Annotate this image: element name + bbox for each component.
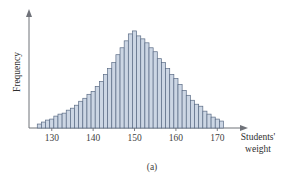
histogram-bar — [91, 91, 95, 128]
x-axis-ticks: 130140150160170 — [45, 128, 225, 143]
histogram-bar — [37, 124, 41, 128]
histogram-bar — [70, 108, 74, 128]
histogram-bar — [153, 52, 157, 128]
histogram-bar — [120, 48, 124, 128]
histogram-bar — [116, 55, 120, 128]
figure-caption: (a) — [147, 162, 158, 173]
histogram-bar — [190, 100, 194, 128]
histogram-bar — [211, 117, 215, 128]
histogram-bar — [219, 121, 223, 128]
histogram-bar — [195, 104, 199, 128]
histogram-bar — [186, 95, 190, 128]
histogram-bar — [132, 31, 136, 128]
histogram-bar — [87, 94, 91, 128]
x-axis-tick-label: 160 — [169, 133, 184, 143]
histogram-bar — [95, 86, 99, 128]
histogram-bar — [215, 119, 219, 128]
histogram-bar — [166, 69, 170, 128]
x-axis-label-line2: weight — [245, 144, 271, 154]
x-axis-tick-label: 150 — [127, 133, 142, 143]
histogram-bar — [141, 39, 145, 128]
histogram-bars — [37, 31, 223, 128]
histogram-bar — [199, 106, 203, 128]
histogram-bar — [203, 111, 207, 128]
histogram-bar — [178, 84, 182, 128]
histogram-bar — [41, 122, 45, 128]
histogram-bar — [79, 101, 83, 128]
y-axis-arrow — [26, 9, 32, 17]
histogram-bar — [207, 114, 211, 128]
x-axis-arrow — [240, 125, 248, 131]
histogram-bar — [50, 119, 54, 128]
histogram-bar — [112, 63, 116, 128]
figure-container: 130140150160170 Students' weight Frequen… — [0, 0, 308, 180]
histogram-bar — [46, 120, 50, 128]
histogram-bar — [62, 113, 66, 128]
x-axis-tick-label: 170 — [210, 133, 225, 143]
histogram-bar — [137, 36, 141, 128]
histogram-bar — [174, 78, 178, 128]
x-axis-label-line1: Students' — [241, 132, 276, 142]
histogram-bar — [128, 34, 132, 128]
histogram-chart: 130140150160170 Students' weight Frequen… — [0, 0, 308, 180]
histogram-bar — [145, 43, 149, 128]
histogram-bar — [104, 75, 108, 128]
histogram-bar — [108, 69, 112, 128]
histogram-bar — [124, 41, 128, 128]
histogram-bar — [83, 98, 87, 128]
histogram-bar — [75, 105, 79, 128]
histogram-bar — [170, 75, 174, 128]
histogram-bar — [99, 81, 103, 128]
y-axis-label: Frequency — [12, 52, 22, 92]
histogram-bar — [54, 116, 58, 128]
histogram-bar — [66, 110, 70, 128]
histogram-bar — [58, 114, 62, 128]
x-axis-tick-label: 130 — [45, 133, 60, 143]
histogram-bar — [157, 59, 161, 128]
histogram-bar — [149, 48, 153, 128]
histogram-bar — [161, 63, 165, 128]
x-axis-tick-label: 140 — [86, 133, 101, 143]
histogram-bar — [182, 90, 186, 128]
